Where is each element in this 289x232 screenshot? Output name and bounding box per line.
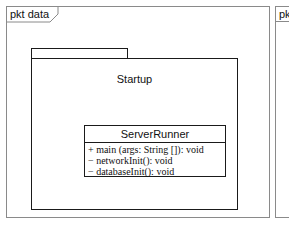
frame-tab: pk — [275, 6, 289, 22]
frame-tab: pkt data — [6, 6, 58, 22]
class-operations: + main (args: String []): void − network… — [85, 143, 225, 177]
class-name: ServerRunner — [85, 126, 225, 143]
class-server-runner[interactable]: ServerRunner + main (args: String []): v… — [84, 125, 226, 177]
operation-main: + main (args: String []): void — [85, 144, 225, 155]
operation-network-init: − networkInit(): void — [85, 155, 225, 166]
frame-label: pk — [279, 8, 289, 20]
frame-label: pkt data — [10, 8, 49, 20]
package-name: Startup — [32, 73, 237, 85]
operation-database-init: − databaseInit(): void — [85, 166, 225, 177]
diagram-frame-partial: pk — [275, 6, 289, 218]
